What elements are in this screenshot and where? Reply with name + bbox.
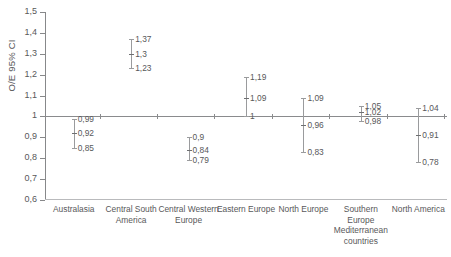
ci-upper-cap bbox=[187, 137, 192, 138]
point-estimate-label: 0,92 bbox=[78, 129, 94, 138]
ci-upper-value-label: 1,04 bbox=[422, 104, 438, 113]
y-axis-tick-label: 1 bbox=[32, 110, 37, 120]
point-estimate-label: 1,09 bbox=[250, 94, 266, 103]
ci-upper-value-label: 1,37 bbox=[135, 35, 151, 44]
y-axis-tick: 1,2 bbox=[40, 75, 45, 76]
ci-lower-value-label: 0,98 bbox=[365, 117, 381, 126]
y-axis-tick: 0,7 bbox=[40, 179, 45, 180]
ci-lower-cap bbox=[301, 152, 306, 153]
ci-lower-value-label: 0,85 bbox=[78, 144, 94, 153]
ci-upper-value-label: 1,09 bbox=[307, 94, 323, 103]
x-category-label: North Europe bbox=[272, 204, 334, 215]
ci-lower-cap bbox=[129, 68, 134, 69]
ci-lower-cap bbox=[359, 121, 364, 122]
ci-upper-value-label: 1,19 bbox=[250, 73, 266, 82]
ci-upper-cap bbox=[244, 77, 249, 78]
y-axis-tick-label: 0,8 bbox=[24, 152, 37, 162]
x-axis-tick bbox=[214, 114, 215, 119]
y-axis-title: O/E 95% CI bbox=[6, 11, 17, 121]
y-axis-tick: 0,8 bbox=[40, 158, 45, 159]
point-estimate-marker bbox=[129, 54, 134, 55]
y-axis-tick: 1,3 bbox=[40, 54, 45, 55]
y-axis-tick-label: 0,7 bbox=[24, 173, 37, 183]
point-estimate-marker bbox=[301, 125, 306, 126]
ci-lower-cap bbox=[416, 162, 421, 163]
x-axis-tick bbox=[387, 114, 388, 119]
x-category-label: Central South America bbox=[100, 204, 162, 225]
y-axis-tick-label: 0,9 bbox=[24, 131, 37, 141]
ci-lower-cap bbox=[244, 116, 249, 117]
x-axis-tick bbox=[272, 114, 273, 119]
ci-lower-value-label: 1,23 bbox=[135, 64, 151, 73]
chart-container: O/E 95% CI 1,51,41,31,21,110,90,80,70,6 … bbox=[0, 0, 451, 257]
ci-upper-cap bbox=[301, 98, 306, 99]
confidence-interval-whisker bbox=[189, 137, 190, 160]
point-estimate-label: 1,3 bbox=[135, 50, 147, 59]
y-axis-tick: 0,6 bbox=[40, 200, 45, 201]
point-estimate-marker bbox=[359, 112, 364, 113]
y-axis-tick: 1,5 bbox=[40, 12, 45, 13]
x-category-label: Central Western Europe bbox=[158, 204, 220, 225]
point-estimate-marker bbox=[244, 98, 249, 99]
point-estimate-label: 0,91 bbox=[422, 131, 438, 140]
ci-lower-value-label: 0,78 bbox=[422, 158, 438, 167]
x-axis-tick bbox=[100, 114, 101, 119]
y-axis-tick-label: 0,6 bbox=[24, 194, 37, 204]
point-estimate-marker bbox=[72, 133, 77, 134]
point-estimate-marker bbox=[416, 135, 421, 136]
ci-lower-value-label: 0,79 bbox=[193, 156, 209, 165]
plot-area: 1,51,41,31,21,110,90,80,70,6 0,990,920,8… bbox=[45, 12, 447, 200]
y-axis-tick-label: 1,4 bbox=[24, 27, 37, 37]
ci-upper-cap bbox=[72, 119, 77, 120]
x-axis-tick bbox=[329, 114, 330, 119]
y-axis-tick-label: 1,1 bbox=[24, 90, 37, 100]
y-axis-tick-label: 1,3 bbox=[24, 48, 37, 58]
point-estimate-label: 0,96 bbox=[307, 121, 323, 130]
confidence-interval-whisker bbox=[361, 106, 362, 121]
y-axis-line bbox=[45, 12, 46, 200]
x-axis-tick bbox=[157, 114, 158, 119]
x-axis-line bbox=[45, 199, 447, 200]
y-axis-tick-label: 1,2 bbox=[24, 69, 37, 79]
point-estimate-marker bbox=[187, 150, 192, 151]
ci-lower-value-label: 1 bbox=[250, 112, 255, 121]
ci-lower-value-label: 0,83 bbox=[307, 148, 323, 157]
ci-upper-value-label: 0,99 bbox=[78, 115, 94, 124]
x-category-label: Southern Europe Mediterranean countries bbox=[330, 204, 392, 246]
confidence-interval-whisker bbox=[246, 77, 247, 117]
ci-upper-cap bbox=[359, 106, 364, 107]
x-category-label: Eastern Europe bbox=[215, 204, 277, 215]
point-estimate-label: 0,84 bbox=[193, 146, 209, 155]
y-axis-tick: 1,1 bbox=[40, 96, 45, 97]
y-axis-tick: 1,4 bbox=[40, 33, 45, 34]
x-category-label: Australasia bbox=[43, 204, 105, 215]
y-axis-tick-label: 1,5 bbox=[24, 6, 37, 16]
ci-lower-cap bbox=[72, 148, 77, 149]
ci-upper-value-label: 0,9 bbox=[193, 133, 205, 142]
ci-upper-cap bbox=[129, 39, 134, 40]
x-axis-tick bbox=[444, 114, 445, 119]
x-category-label: North America bbox=[387, 204, 449, 215]
ci-upper-cap bbox=[416, 108, 421, 109]
ci-lower-cap bbox=[187, 160, 192, 161]
y-axis-tick: 0,9 bbox=[40, 137, 45, 138]
